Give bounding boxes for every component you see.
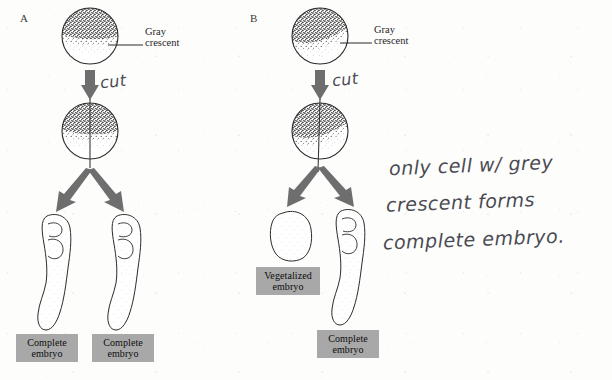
panel-b-split-arrows bbox=[287, 166, 354, 207]
panel-b-caption-vegetalized: Vegetalized embryo bbox=[256, 267, 320, 295]
panel-b-gray-crescent-label-line2: crescent bbox=[374, 35, 408, 47]
panel-a-caption-right-line2: embryo bbox=[107, 348, 138, 360]
panel-a-embryo-right bbox=[108, 215, 141, 331]
panel-a-caption-left-line2: embryo bbox=[31, 348, 62, 360]
panel-b-letter: B bbox=[250, 12, 257, 24]
panel-a-split-arrows bbox=[56, 168, 124, 212]
figure-page: A B Gray crescent Gray crescent cut cut … bbox=[0, 0, 612, 380]
panel-a-cut-handwriting: cut bbox=[99, 71, 127, 93]
panel-b-embryo-complete bbox=[332, 210, 365, 326]
panel-b-embryo-vegetalized bbox=[270, 211, 311, 261]
handwritten-note-line1: only cell w/ grey bbox=[388, 147, 553, 184]
panel-b-egg-intact bbox=[290, 8, 372, 68]
panel-b-caption-complete-line2: embryo bbox=[332, 344, 363, 356]
panel-a-gray-crescent-label-line2: crescent bbox=[145, 37, 179, 49]
panel-a-letter: A bbox=[20, 12, 28, 24]
panel-a-caption-right-line1: Complete bbox=[103, 337, 143, 349]
panel-a-caption-left-line1: Complete bbox=[27, 337, 67, 349]
panel-b-cut-arrow bbox=[311, 70, 329, 100]
panel-a-caption-left: Complete embryo bbox=[16, 334, 78, 362]
panel-b-caption-vegetalized-line1: Vegetalized bbox=[264, 270, 312, 282]
panel-b-caption-complete-line1: Complete bbox=[328, 333, 368, 345]
panel-a-egg-intact bbox=[60, 8, 143, 68]
panel-a-gray-crescent-label-line1: Gray bbox=[145, 26, 166, 38]
panel-a-embryo-left bbox=[38, 215, 71, 331]
panel-a-caption-right: Complete embryo bbox=[92, 334, 154, 362]
panel-b-egg-divided bbox=[290, 99, 350, 172]
panel-b-gray-crescent-label-line1: Gray bbox=[374, 24, 395, 36]
panel-b-cut-handwriting: cut bbox=[331, 69, 359, 91]
panel-a-cut-arrow bbox=[81, 70, 99, 100]
handwritten-note-line2: crescent forms bbox=[385, 184, 535, 221]
panel-b-caption-vegetalized-line2: embryo bbox=[272, 281, 303, 293]
panel-b-caption-complete: Complete embryo bbox=[317, 330, 379, 358]
panel-a-egg-divided bbox=[60, 99, 120, 168]
